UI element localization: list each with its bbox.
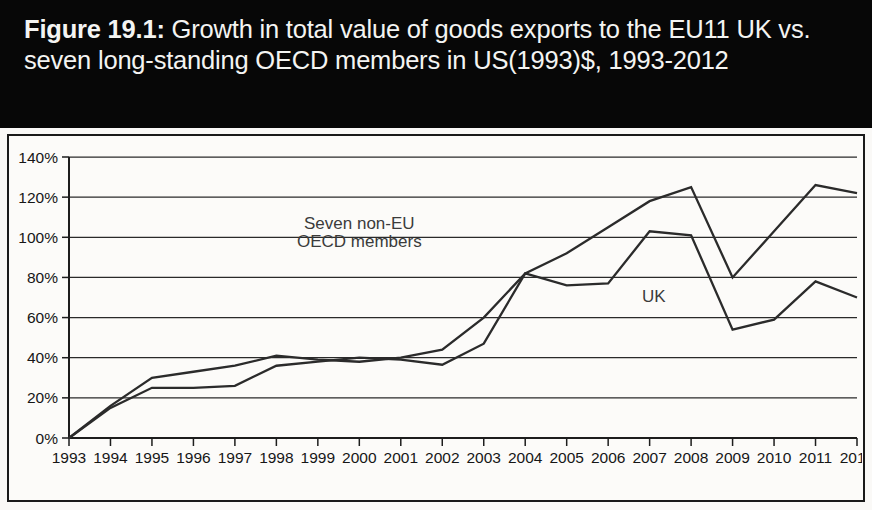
x-axis-tick-label: 2000 <box>342 449 377 466</box>
x-axis-tick-label: 2004 <box>508 449 543 466</box>
x-axis-tick-label: 1996 <box>176 449 210 466</box>
x-axis-tick-label: 2006 <box>591 449 625 466</box>
chart-frame: 0%20%40%60%80%100%120%140%19931994199519… <box>7 134 865 502</box>
x-axis-tick-label: 2010 <box>757 449 792 466</box>
x-axis-tick-label: 2005 <box>549 449 583 466</box>
y-axis-tick-label: 60% <box>27 309 58 326</box>
series-annotation-label: UK <box>642 287 666 306</box>
x-axis-tick-label: 1999 <box>301 449 335 466</box>
x-axis-tick-label: 2002 <box>425 449 459 466</box>
x-axis-tick-label: 1993 <box>52 449 86 466</box>
y-axis-tick-label: 20% <box>27 389 58 406</box>
x-axis-tick-label: 1995 <box>135 449 169 466</box>
y-axis-tick-label: 40% <box>27 349 58 366</box>
y-axis-tick-label: 140% <box>18 149 58 166</box>
x-axis-tick-label: 2001 <box>384 449 418 466</box>
series-annotation-label: OECD members <box>297 232 422 251</box>
x-axis-tick-label: 1994 <box>93 449 128 466</box>
x-axis-tick-label: 1997 <box>218 449 252 466</box>
data-series-line <box>69 185 857 438</box>
y-axis-tick-label: 120% <box>18 189 58 206</box>
figure-page: Figure 19.1: Growth in total value of go… <box>0 0 872 510</box>
x-axis-tick-label: 2008 <box>674 449 708 466</box>
x-axis-tick-label: 2007 <box>632 449 666 466</box>
y-axis-tick-label: 100% <box>18 229 58 246</box>
line-chart-svg: 0%20%40%60%80%100%120%140%19931994199519… <box>9 136 862 499</box>
figure-title-banner: Figure 19.1: Growth in total value of go… <box>0 0 872 128</box>
series-annotation-label: Seven non-EU <box>304 214 415 233</box>
y-axis-tick-label: 0% <box>36 430 59 447</box>
x-axis-tick-label: 2011 <box>799 449 832 466</box>
x-axis-tick-label: 1998 <box>259 449 293 466</box>
figure-number: Figure 19.1: <box>24 15 165 43</box>
x-axis-tick-label: 2012 <box>840 449 862 466</box>
y-axis-tick-label: 80% <box>27 269 58 286</box>
page-title: Figure 19.1: Growth in total value of go… <box>24 14 854 76</box>
x-axis-tick-label: 2009 <box>715 449 749 466</box>
x-axis-tick-label: 2003 <box>466 449 500 466</box>
plot-area: 0%20%40%60%80%100%120%140%19931994199519… <box>9 136 863 500</box>
